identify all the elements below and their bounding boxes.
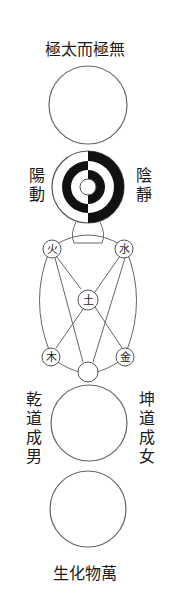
node-metal: 金 xyxy=(116,348,134,366)
yin-yang-circle xyxy=(52,151,124,223)
qian-kun-circle xyxy=(51,385,127,461)
wuji-circle xyxy=(49,66,127,144)
node-fire: 火 xyxy=(43,240,61,258)
water-glyph: 水 xyxy=(119,243,130,256)
wood-glyph: 木 xyxy=(46,351,57,364)
five-elements-structure: 火 水 土 木 金 xyxy=(40,235,137,382)
node-water: 水 xyxy=(115,240,133,258)
fire-glyph: 火 xyxy=(47,243,58,256)
myriad-things-circle xyxy=(50,471,126,547)
node-earth: 土 xyxy=(78,290,98,310)
earth-glyph: 土 xyxy=(83,294,94,307)
yin-yang-stem xyxy=(72,222,103,243)
node-wood: 木 xyxy=(42,348,60,366)
metal-glyph: 金 xyxy=(120,350,131,364)
five-elements-union-circle xyxy=(78,362,98,382)
taijitu-diagram: 火 水 土 木 金 xyxy=(0,0,169,600)
